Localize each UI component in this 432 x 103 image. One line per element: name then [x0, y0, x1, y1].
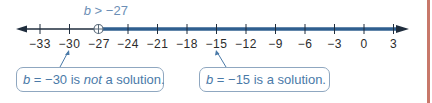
- tick-label: −3: [327, 37, 342, 51]
- tick-label: −15: [206, 37, 228, 51]
- tick-label: 0: [360, 37, 367, 51]
- tick-label: −27: [88, 37, 110, 51]
- tick-label: −21: [147, 37, 169, 51]
- page-side-border: [427, 0, 430, 103]
- callout-emphasis: not: [84, 72, 102, 87]
- callout-is-solution: b = −15 is a solution.: [199, 67, 330, 92]
- right-arrow-icon: [396, 25, 409, 33]
- tick-label: −9: [268, 37, 283, 51]
- callout-not-solution: b = −30 is not a solution.: [16, 67, 164, 92]
- callout-text: = −30 is: [30, 72, 83, 87]
- left-arrow-icon: [16, 26, 27, 33]
- callout-text: = −15 is a solution.: [213, 72, 326, 87]
- tick-label: −12: [235, 37, 257, 51]
- tick-label: −24: [117, 37, 139, 51]
- tick-label: −33: [29, 37, 51, 51]
- number-line-figure: b > −27 −33: [0, 0, 432, 103]
- tick-label: −6: [298, 37, 313, 51]
- callout-text: a solution.: [102, 72, 165, 87]
- tick-label: −18: [176, 37, 198, 51]
- tick-label: 3: [390, 37, 397, 51]
- tick-label: −30: [59, 37, 81, 51]
